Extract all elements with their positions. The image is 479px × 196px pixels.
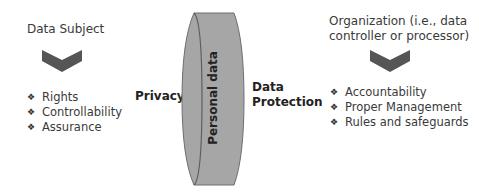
list-item-label: Rights [42, 90, 78, 105]
list-item-label: Rules and safeguards [345, 115, 469, 130]
personal-data-label: Personal data [206, 51, 220, 145]
list-item: ❖ Accountability [330, 85, 469, 100]
list-item: ❖ Proper Management [330, 100, 469, 115]
list-item-label: Proper Management [345, 100, 462, 115]
list-item-label: Assurance [42, 120, 102, 135]
list-item: ❖ Controllability [27, 105, 122, 120]
diamond-bullet-icon: ❖ [27, 90, 36, 105]
list-item: ❖ Rules and safeguards [330, 115, 469, 130]
list-item: ❖ Rights [27, 90, 122, 105]
chevron-down-icon [42, 50, 82, 72]
list-item: ❖ Assurance [27, 120, 122, 135]
diamond-bullet-icon: ❖ [330, 85, 339, 100]
diamond-bullet-icon: ❖ [27, 120, 36, 135]
organization-heading: Organization (i.e., data controller or p… [329, 14, 479, 44]
privacy-label: Privacy [135, 89, 185, 104]
diamond-bullet-icon: ❖ [27, 105, 36, 120]
data-subject-list: ❖ Rights ❖ Controllability ❖ Assurance [27, 90, 122, 135]
diamond-bullet-icon: ❖ [330, 100, 339, 115]
data-protection-label-line2: Protection [252, 95, 323, 110]
diamond-bullet-icon: ❖ [330, 115, 339, 130]
data-subject-heading: Data Subject [27, 22, 104, 37]
data-protection-label-line1: Data [252, 80, 323, 95]
list-item-label: Controllability [42, 105, 122, 120]
organization-heading-line2: controller or processor) [329, 29, 479, 44]
list-item-label: Accountability [345, 85, 427, 100]
data-protection-label: Data Protection [252, 80, 323, 110]
organization-list: ❖ Accountability ❖ Proper Management ❖ R… [330, 85, 469, 130]
chevron-down-icon [370, 50, 410, 72]
organization-heading-line1: Organization (i.e., data [329, 14, 479, 29]
